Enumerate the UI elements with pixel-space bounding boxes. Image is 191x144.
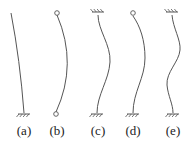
column-label: (e) (166, 124, 180, 137)
column-c (90, 9, 111, 117)
fixed-support-icon (165, 9, 179, 12)
pin-support-icon (55, 11, 60, 16)
fixed-support-icon (126, 114, 140, 117)
column-b (54, 11, 68, 117)
fixed-support-icon (90, 114, 104, 117)
column-label: (d) (125, 124, 140, 137)
column-a (11, 13, 30, 117)
pin-support-icon (54, 112, 59, 117)
fixed-support-icon (91, 9, 105, 12)
column-label: (a) (17, 124, 31, 137)
deflected-shape-curve (56, 15, 67, 112)
deflected-shape-curve (133, 16, 145, 113)
fixed-support-icon (166, 114, 180, 117)
fixed-support-icon (17, 114, 31, 117)
column-d (126, 11, 146, 117)
deflected-shape-curve (97, 15, 110, 113)
column-label: (c) (91, 124, 105, 137)
pin-support-icon (131, 11, 136, 16)
deflected-shape-curve (167, 15, 180, 113)
columns-group (11, 9, 180, 117)
column-label: (b) (49, 124, 64, 137)
deflected-shape-curve (11, 13, 24, 113)
column-e (165, 9, 181, 117)
